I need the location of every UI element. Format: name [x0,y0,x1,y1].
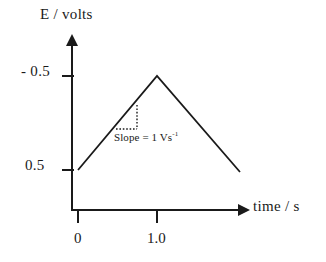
waveform-trace [78,76,240,172]
x-axis-title: time / s [253,199,300,214]
y-tick-label-minus-half: - 0.5 [21,64,50,79]
slope-annotation: Slope = 1 Vs-1 [114,132,178,143]
x-tick-label-one: 1.0 [147,231,166,246]
y-tick-label-plus-half: 0.5 [25,158,45,173]
slope-annotation-exponent: -1 [172,130,178,138]
slope-annotation-text: Slope = 1 Vs [114,131,172,143]
x-tick-label-zero: 0 [74,231,82,246]
y-axis-title: E / volts [40,7,93,22]
waveform-figure: E / volts time / s - 0.5 0.5 0 1.0 Slope… [0,0,326,262]
